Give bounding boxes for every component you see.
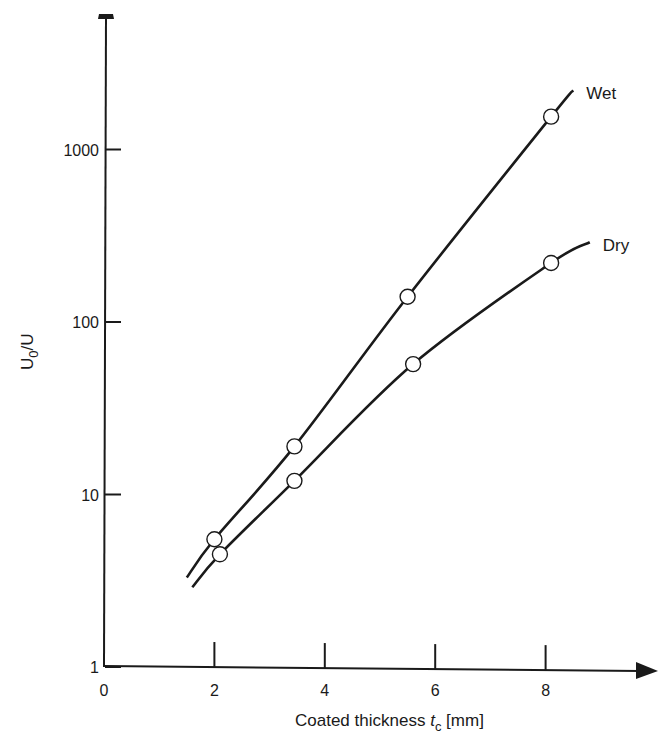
x-axis: 02468 xyxy=(100,642,658,699)
x-tick-label: 8 xyxy=(541,682,550,699)
data-point-marker xyxy=(400,289,415,304)
y-tick-label: 1 xyxy=(90,659,99,676)
y-tick-label: 1000 xyxy=(63,142,99,159)
x-tick-label: 4 xyxy=(320,682,329,699)
data-point-marker xyxy=(287,439,302,454)
data-point-marker xyxy=(287,473,302,488)
data-point-marker xyxy=(544,255,559,270)
series-label-dry: Dry xyxy=(603,236,630,255)
data-point-marker xyxy=(212,547,227,562)
data-point-marker xyxy=(544,109,559,124)
y-axis-cap-icon xyxy=(98,14,114,19)
series-dry: Dry xyxy=(192,236,629,587)
x-tick-label: 0 xyxy=(100,682,109,699)
series-label-wet: Wet xyxy=(586,84,616,103)
x-tick-label: 2 xyxy=(210,682,219,699)
y-tick-label: 100 xyxy=(72,314,99,331)
series-line xyxy=(187,90,573,577)
data-point-marker xyxy=(406,357,421,372)
data-point-marker xyxy=(207,532,222,547)
y-tick-label: 10 xyxy=(81,487,99,504)
plot-area: WetDry xyxy=(187,84,630,587)
x-axis-arrow-icon xyxy=(636,662,658,679)
x-tick-label: 6 xyxy=(431,682,440,699)
series-wet: Wet xyxy=(187,84,617,577)
y-axis-title: U0/U xyxy=(18,333,41,370)
chart: 1101001000 02468 Coated thickness tc [mm… xyxy=(0,0,667,750)
x-axis-title: Coated thickness tc [mm] xyxy=(295,711,484,734)
series-line xyxy=(192,242,589,587)
y-axis: 1101001000 xyxy=(63,14,121,676)
